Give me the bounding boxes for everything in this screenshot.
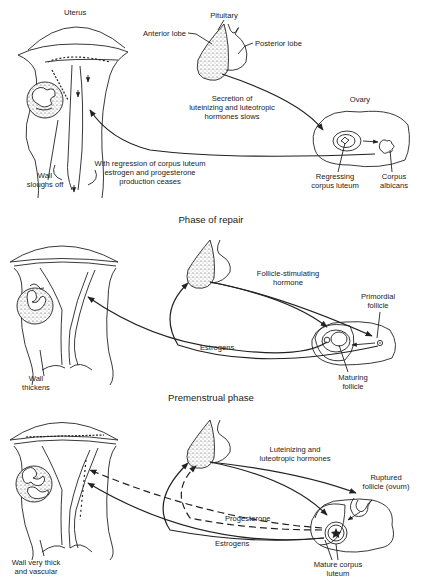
label-wall-thickens-1: Wall xyxy=(29,374,44,383)
label-posterior-lobe: Posterior lobe xyxy=(255,39,302,48)
label-ruptured-2: follicle (ovum) xyxy=(363,482,410,491)
label-secretion-2: luteinizing and luteotropic xyxy=(189,103,275,112)
arrow-progesterone-uterus xyxy=(90,470,322,528)
label-progesterone: Progesterone xyxy=(225,514,271,523)
arrow-fsh-primordial xyxy=(210,282,372,336)
label-albicans-2: albicans xyxy=(380,181,408,190)
label-maturing-1: Maturing xyxy=(338,373,368,382)
label-primordial-2: follicle xyxy=(367,301,388,310)
heading-phase-of-repair: Phase of repair xyxy=(178,214,244,225)
label-regressing-1: Regressing xyxy=(316,172,354,181)
panel-menstrual: Uterus Wall sloughs off Pituitary Anteri… xyxy=(18,8,409,198)
label-ruptured-1: Ruptured xyxy=(370,473,401,482)
pituitary-illustration xyxy=(187,420,230,468)
label-maturing-2: follicle xyxy=(342,382,363,391)
label-ovary: Ovary xyxy=(350,95,370,104)
panel-premenstrual: Premenstrual phase Wall very thick and v… xyxy=(10,392,410,578)
label-regression-3: production ceases xyxy=(119,177,181,186)
label-fsh-2: hormone xyxy=(273,278,303,287)
label-estrogens: Estrogens xyxy=(215,539,249,548)
label-wall-very-thick-1: Wall very thick xyxy=(12,558,61,567)
label-secretion-1: Secretion of xyxy=(212,94,253,103)
label-mature-2: luteum xyxy=(327,569,350,578)
label-regression-1: With regression of corpus luteum xyxy=(95,159,206,168)
arrow-fsh-maturing xyxy=(210,282,327,327)
label-lh-2: luteotropic hormones xyxy=(260,454,331,463)
arrow-estrogens-uterus xyxy=(88,483,324,540)
heading-premenstrual-phase: Premenstrual phase xyxy=(168,392,254,403)
ovary-illustration xyxy=(313,111,409,166)
uterus-illustration xyxy=(10,246,118,385)
label-uterus: Uterus xyxy=(64,8,87,17)
label-lh-1: Luteinizing and xyxy=(269,445,320,454)
label-wall-thickens-2: thickens xyxy=(22,383,50,392)
label-wall-very-thick-2: and vascular xyxy=(14,567,58,576)
label-fsh-1: Follicle-stimulating xyxy=(257,269,319,278)
label-secretion-3: hormones slows xyxy=(205,112,260,121)
menstrual-cycle-diagram: Uterus Wall sloughs off Pituitary Anteri… xyxy=(0,0,422,584)
label-wall-sloughs-1: Wall xyxy=(38,171,53,180)
label-wall-sloughs-2: sloughs off xyxy=(27,180,64,189)
label-regressing-2: corpus luteum xyxy=(311,181,359,190)
ovary-illustration xyxy=(311,498,394,552)
label-primordial-1: Primordial xyxy=(361,292,395,301)
panel-repair: Phase of repair Wall thickens Follicle-s… xyxy=(10,214,396,392)
label-regression-2: estrogen and progesterone xyxy=(104,168,195,177)
label-anterior-lobe: Anterior lobe xyxy=(143,29,186,38)
pituitary-illustration xyxy=(197,20,247,80)
label-estrogens: Estrogens xyxy=(200,343,234,352)
label-mature-1: Mature corpus xyxy=(314,560,363,569)
label-pituitary: Pituitary xyxy=(210,11,238,20)
label-albicans-1: Corpus xyxy=(382,172,407,181)
pituitary-illustration xyxy=(187,240,230,288)
arrow-estrogens-pituitary xyxy=(163,463,324,540)
